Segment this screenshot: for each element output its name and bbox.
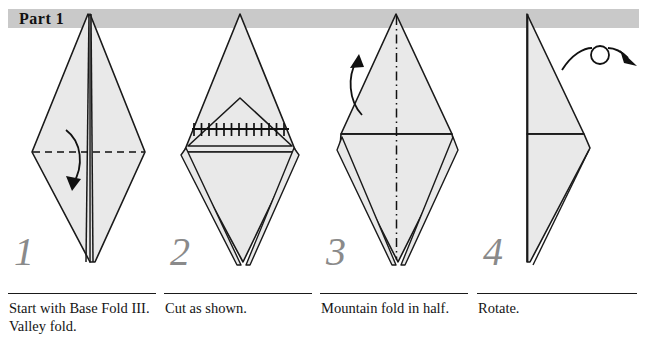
step-caption-1: Start with Base Fold III. Valley fold.: [9, 299, 159, 335]
rotate-arrow-head: [620, 50, 637, 66]
figure-2-folded-flap: [188, 98, 292, 146]
step-rule-2: [164, 293, 312, 294]
figure-3-lower-body: [340, 134, 455, 262]
figure-4-layer-edge: [533, 150, 589, 265]
figure-3-fold-arrow-head: [350, 54, 364, 68]
step-number-2: 2: [170, 232, 190, 272]
figure-2-cut-ticks: [194, 123, 284, 136]
figure-4-lower-body: [527, 134, 590, 262]
step-number-1: 1: [14, 232, 34, 272]
figure-2-diamond-cut: [181, 14, 299, 265]
figure-1-paper-body: [32, 14, 142, 262]
step-rule-4: [477, 293, 637, 294]
figure-2-lower-body: [184, 152, 296, 262]
figure-1-diamond-valley-fold: [32, 14, 145, 262]
figure-4-upper-body: [527, 14, 584, 134]
figure-3-fold-arrow-shaft: [351, 62, 362, 115]
rotate-arrow-loop-icon: [591, 46, 609, 64]
figures-layer: [0, 0, 647, 346]
rotate-arrow-arc: [562, 48, 592, 70]
figure-4-side-profile-rotate: [527, 14, 637, 265]
figure-1-fold-arrow-shaft: [66, 130, 80, 184]
figure-3-layer-outline-right: [401, 137, 458, 265]
figure-2-layer-outline-right: [246, 148, 299, 265]
figure-3-diamond-mountain-fold: [337, 14, 458, 265]
part-banner: [8, 9, 639, 28]
step-caption-3: Mountain fold in half.: [321, 299, 471, 317]
figure-1-fold-arrow-head: [66, 176, 81, 191]
figure-1-layer-line-b: [91, 14, 93, 262]
rotate-arrow-arc-right: [608, 48, 628, 58]
figure-2-upper-body: [184, 14, 296, 152]
figure-1-right-layer: [90, 14, 145, 262]
step-rule-1: [8, 293, 156, 294]
figure-2-layer-outline-left: [181, 148, 241, 265]
step-caption-4: Rotate.: [478, 299, 638, 317]
step-number-4: 4: [483, 232, 503, 272]
origami-instruction-page: Part 1: [0, 0, 647, 346]
step-caption-2: Cut as shown.: [165, 299, 315, 317]
figure-1-layer-line-a: [86, 14, 89, 262]
figure-3-upper-body: [341, 14, 452, 134]
step-number-3: 3: [326, 232, 346, 272]
step-rule-3: [320, 293, 468, 294]
part-title: Part 1: [19, 9, 64, 28]
